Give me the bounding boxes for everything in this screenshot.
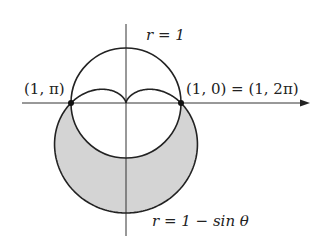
cardioid-equation-label: r = 1 − sin θ xyxy=(152,212,249,230)
polar-diagram: r = 1 (1, π) (1, 0) = (1, 2π) r = 1 − si… xyxy=(0,0,329,236)
left-point-label: (1, π) xyxy=(24,80,65,98)
arrowhead-icon xyxy=(300,100,310,107)
point-1-0 xyxy=(178,100,184,106)
right-point-label: (1, 0) = (1, 2π) xyxy=(186,80,299,98)
circle-equation-label: r = 1 xyxy=(146,26,185,44)
point-1-pi xyxy=(68,100,74,106)
